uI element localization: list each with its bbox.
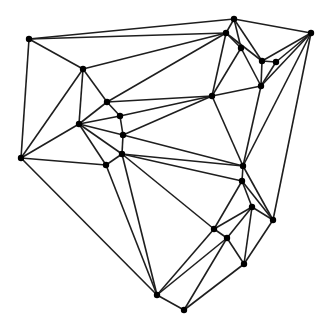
graph-node [104,99,110,105]
graph-edge [261,33,311,86]
graph-edge [212,96,243,166]
graph-node [239,178,245,184]
graph-node [273,59,279,65]
graph-edge [244,220,273,264]
graph-edge [122,154,242,181]
graph-edge [21,39,29,158]
graph-edge [184,238,227,310]
graph-node [80,66,86,72]
graph-node [249,204,255,210]
graph-node [103,162,109,168]
graph-edge [21,158,157,295]
graph-node [117,113,123,119]
graph-edge [79,69,83,124]
graph-edge [212,86,261,96]
graph-edge [29,39,83,69]
graph-edge [83,33,226,69]
graph-node [241,261,247,267]
graph-edge [21,69,83,158]
graph-node [238,45,244,51]
graph-edge [242,181,252,207]
graph-edge [157,238,227,295]
graph-edge [234,19,311,33]
graph-edge [122,154,157,295]
graph-edge [123,96,212,135]
graph-node [223,30,229,36]
graph-edge [21,158,106,165]
graph-edge [243,86,261,166]
graph-edge [106,165,157,295]
graph-edge [83,69,107,102]
graph-node [209,93,215,99]
graph-edge [107,33,226,102]
graph-edge [122,154,214,229]
graph-node [119,151,125,157]
graph-edge [122,154,243,166]
graph-edge [79,124,122,154]
graph-edge [184,264,244,310]
graph-node [120,132,126,138]
graph-edges [21,19,311,310]
graph-node [259,58,265,64]
graph-node [18,155,24,161]
graph-node [240,163,246,169]
graph-node [270,217,276,223]
graph-edge [212,33,226,96]
graph-node [224,235,230,241]
graph-edge [212,48,241,96]
graph-node [154,292,160,298]
graph-node [308,30,314,36]
graph-node [26,36,32,42]
graph-node [211,226,217,232]
graph-edge [261,61,262,86]
graph-node [181,307,187,313]
graph-edge [21,124,79,158]
graph-edge [261,62,276,86]
graph-diagram [0,0,331,330]
graph-edge [157,229,214,295]
graph-node [258,83,264,89]
graph-edge [123,135,243,166]
graph-edge [227,238,244,264]
graph-node [76,121,82,127]
graph-edge [157,295,184,310]
graph-node [231,16,237,22]
graph-edge [234,19,262,61]
